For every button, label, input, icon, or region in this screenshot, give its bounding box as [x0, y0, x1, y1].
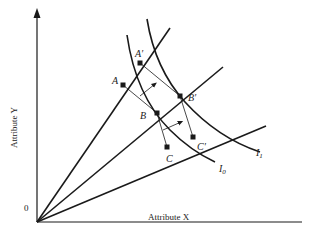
label-C: C: [166, 153, 173, 164]
label-I1: I1: [255, 147, 263, 160]
x-axis-label: Attribute X: [148, 212, 190, 222]
label-A: A: [111, 75, 119, 86]
label-C-prime: C′: [197, 141, 207, 152]
point-B-prime: [178, 94, 183, 99]
point-A-prime: [138, 61, 143, 66]
point-A: [121, 83, 126, 88]
curve-I1: [147, 19, 260, 152]
origin-label: 0: [24, 203, 29, 213]
point-C-prime: [191, 135, 196, 140]
line-A-B: [123, 85, 157, 113]
point-C: [165, 145, 170, 150]
label-B: B: [140, 110, 146, 121]
label-B-prime: B′: [188, 92, 197, 103]
y-axis-arrow-icon: [34, 8, 41, 18]
label-A-prime: A′: [134, 48, 144, 59]
point-B: [155, 111, 160, 116]
diagram-canvas: A A′ B B′ C C′ I0 I1 0 Attribute X Attri…: [0, 0, 313, 231]
y-axis-label: Attribute Y: [9, 107, 19, 148]
ray-upper: [37, 28, 170, 222]
label-I0: I0: [218, 163, 226, 176]
